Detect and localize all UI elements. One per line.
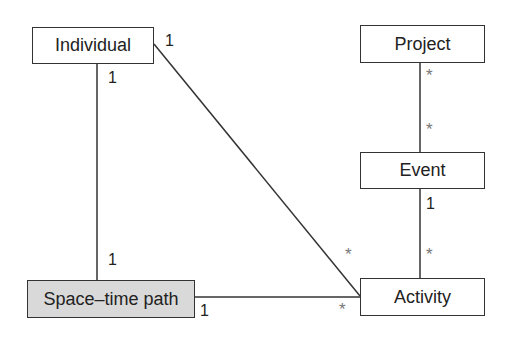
event-entity: Event — [360, 152, 485, 189]
individual-label: Individual — [55, 35, 131, 56]
activity-entity: Activity — [360, 278, 485, 316]
multiplicity-label: 1 — [165, 33, 174, 49]
multiplicity-label: 1 — [108, 252, 117, 268]
multiplicity-label: 1 — [200, 303, 209, 319]
multiplicity-label: 1 — [108, 70, 117, 86]
individual-entity: Individual — [32, 27, 154, 64]
space-time-path-label: Space–time path — [43, 289, 178, 310]
multiplicity-label: * — [426, 246, 433, 263]
space-time-path-entity: Space–time path — [27, 280, 195, 318]
multiplicity-label: * — [426, 67, 433, 84]
activity-label: Activity — [394, 287, 451, 308]
event-label: Event — [399, 160, 445, 181]
project-label: Project — [394, 34, 450, 55]
multiplicity-label: * — [339, 301, 346, 318]
multiplicity-label: 1 — [426, 196, 435, 212]
project-entity: Project — [360, 25, 485, 63]
multiplicity-label: * — [345, 246, 352, 263]
multiplicity-label: * — [426, 121, 433, 138]
individual-activity-line — [154, 44, 360, 296]
